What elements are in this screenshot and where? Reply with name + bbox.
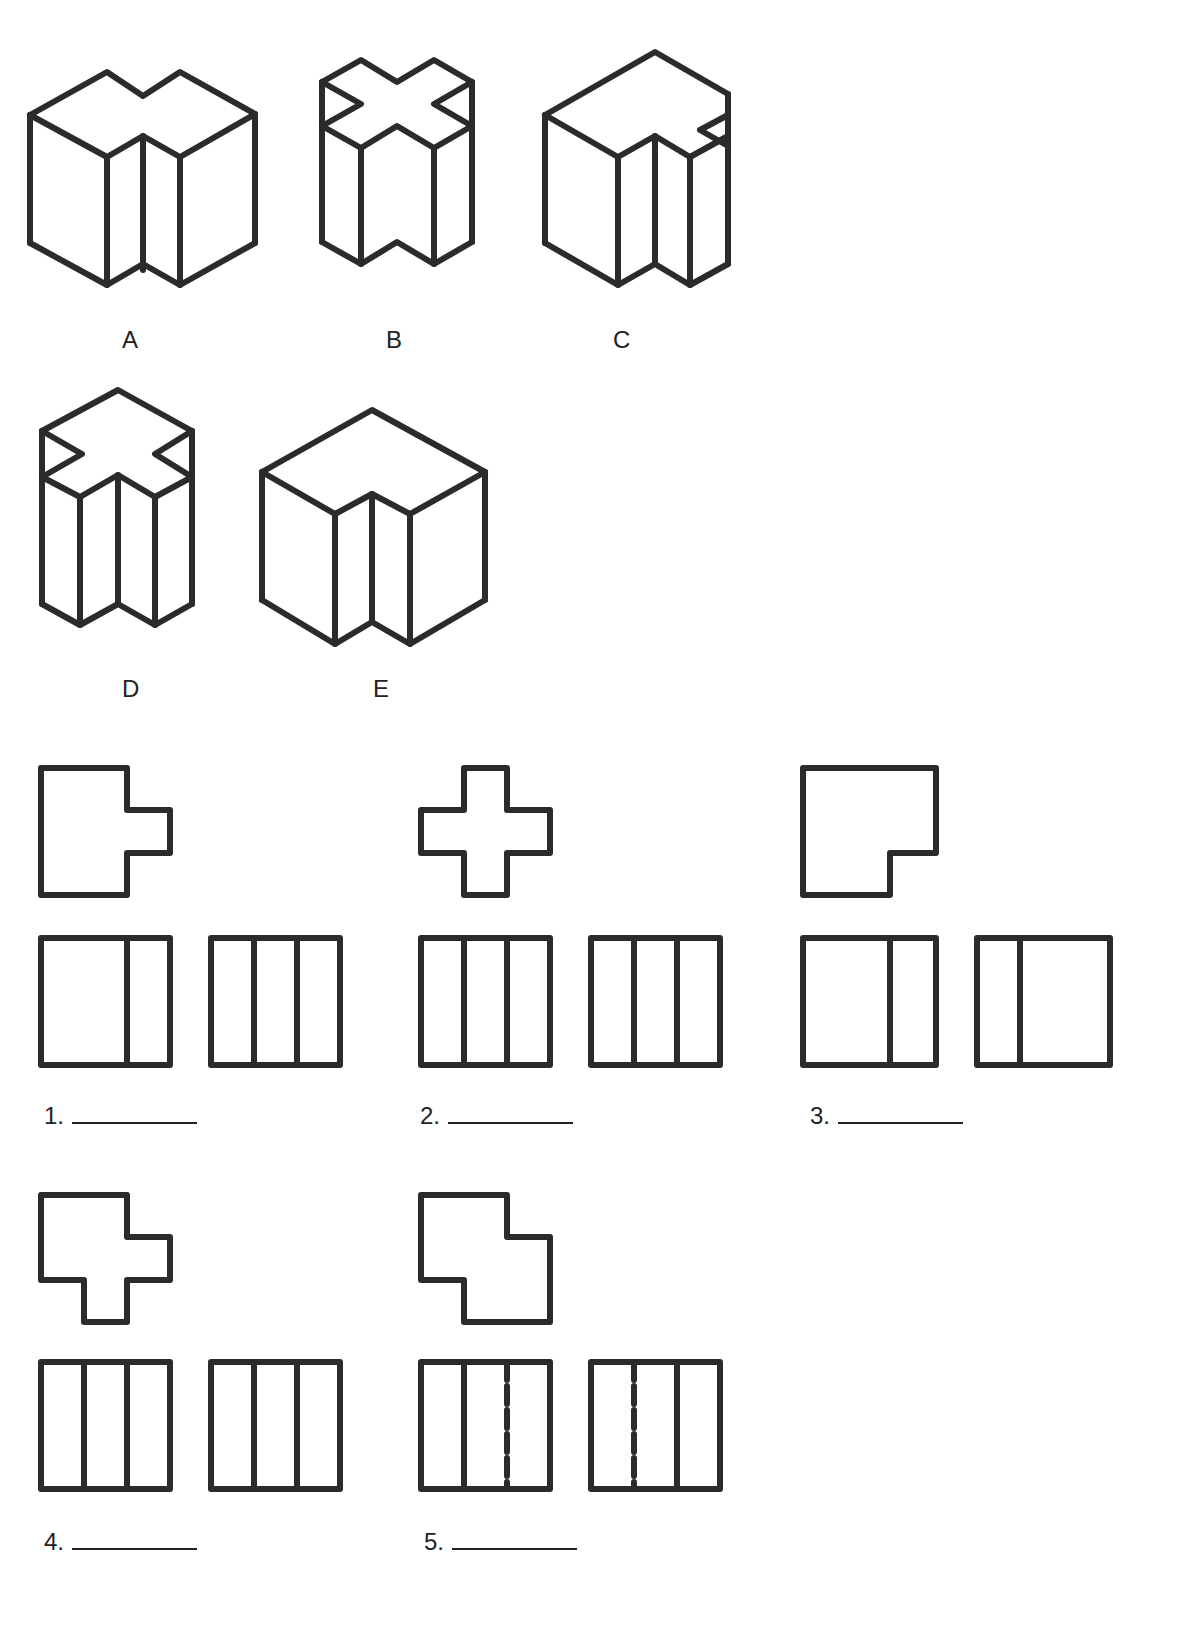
item-number: 2. [420,1102,440,1129]
answer-blank-4[interactable] [72,1528,197,1550]
orthographic-set-5 [421,1195,720,1489]
item-number: 1. [44,1102,64,1129]
isometric-shape-a [30,72,255,285]
isometric-shape-e [262,410,485,644]
answer-blank-3[interactable] [838,1102,963,1124]
orthographic-set-3 [803,768,1110,1065]
worksheet-drawing [0,0,1195,1639]
label-d: D [122,675,139,703]
answer-blank-5[interactable] [452,1528,577,1550]
item-number: 3. [810,1102,830,1129]
label-a: A [122,326,138,354]
label-b: B [386,326,402,354]
label-c: C [613,326,630,354]
isometric-shape-c [545,52,728,285]
item-number: 4. [44,1528,64,1555]
answer-blank-2[interactable] [448,1102,573,1124]
orthographic-set-4 [41,1195,340,1489]
answer-item-4: 4. [44,1528,197,1556]
item-number: 5. [424,1528,444,1555]
orthographic-set-1 [41,768,340,1065]
orthographic-set-2 [421,768,720,1065]
answer-item-1: 1. [44,1102,197,1130]
label-e: E [373,675,389,703]
answer-item-2: 2. [420,1102,573,1130]
answer-item-3: 3. [810,1102,963,1130]
answer-item-5: 5. [424,1528,577,1556]
isometric-shape-d [42,390,192,625]
answer-blank-1[interactable] [72,1102,197,1124]
isometric-shape-b [322,60,472,264]
